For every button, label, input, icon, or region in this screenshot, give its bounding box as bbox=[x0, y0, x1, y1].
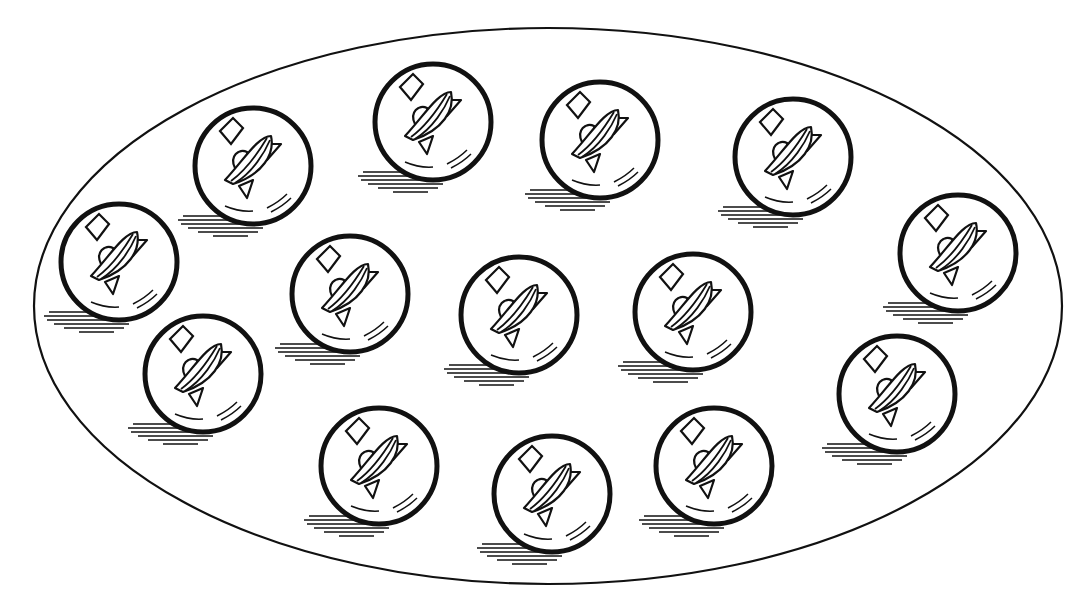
marble-icon bbox=[275, 236, 408, 364]
marble-icon bbox=[44, 204, 177, 332]
marble-icon bbox=[444, 257, 577, 385]
marble-icon bbox=[822, 336, 955, 464]
marble-icon bbox=[525, 82, 658, 210]
marble-icon bbox=[128, 316, 261, 444]
marble-icon bbox=[618, 254, 751, 382]
marble-icon bbox=[178, 108, 311, 236]
marbles-group bbox=[44, 64, 1016, 564]
marble-icon bbox=[477, 436, 610, 564]
marble-icon bbox=[358, 64, 491, 192]
marble-icon bbox=[304, 408, 437, 536]
marble-icon bbox=[883, 195, 1016, 323]
marbles-illustration bbox=[0, 0, 1084, 610]
marble-icon bbox=[639, 408, 772, 536]
illustration-canvas bbox=[0, 0, 1084, 610]
marble-icon bbox=[718, 99, 851, 227]
